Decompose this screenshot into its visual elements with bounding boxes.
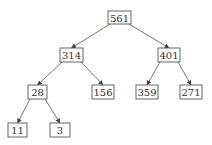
tree-node-28: 28 xyxy=(28,85,47,99)
tree-node-11: 11 xyxy=(8,123,27,137)
node-label: 314 xyxy=(62,50,81,61)
edge-n28-n11 xyxy=(18,99,31,123)
edge-n314-n156 xyxy=(81,62,103,85)
node-label: 561 xyxy=(110,13,129,24)
edge-n314-n28 xyxy=(38,62,63,85)
node-label: 359 xyxy=(137,87,156,98)
edge-n401-n271 xyxy=(178,62,191,85)
edge-n28-n3 xyxy=(45,99,60,123)
tree-diagram: 56131440128156359271113 xyxy=(0,0,212,145)
tree-node-271: 271 xyxy=(180,85,202,99)
edge-n561-n314 xyxy=(72,24,111,48)
tree-node-359: 359 xyxy=(136,85,158,99)
edge-n401-n359 xyxy=(147,62,160,85)
node-label: 156 xyxy=(93,87,112,98)
tree-node-3: 3 xyxy=(50,123,70,137)
tree-node-561: 561 xyxy=(108,11,131,24)
node-label: 11 xyxy=(11,125,24,136)
tree-node-156: 156 xyxy=(92,85,114,99)
node-label: 28 xyxy=(31,87,44,98)
nodes-group: 56131440128156359271113 xyxy=(8,11,202,137)
edge-n561-n401 xyxy=(129,24,169,48)
node-label: 3 xyxy=(57,125,63,136)
node-label: 271 xyxy=(181,87,200,98)
tree-node-401: 401 xyxy=(158,48,180,62)
tree-node-314: 314 xyxy=(60,48,83,62)
edges-group xyxy=(18,24,192,123)
node-label: 401 xyxy=(159,50,178,61)
